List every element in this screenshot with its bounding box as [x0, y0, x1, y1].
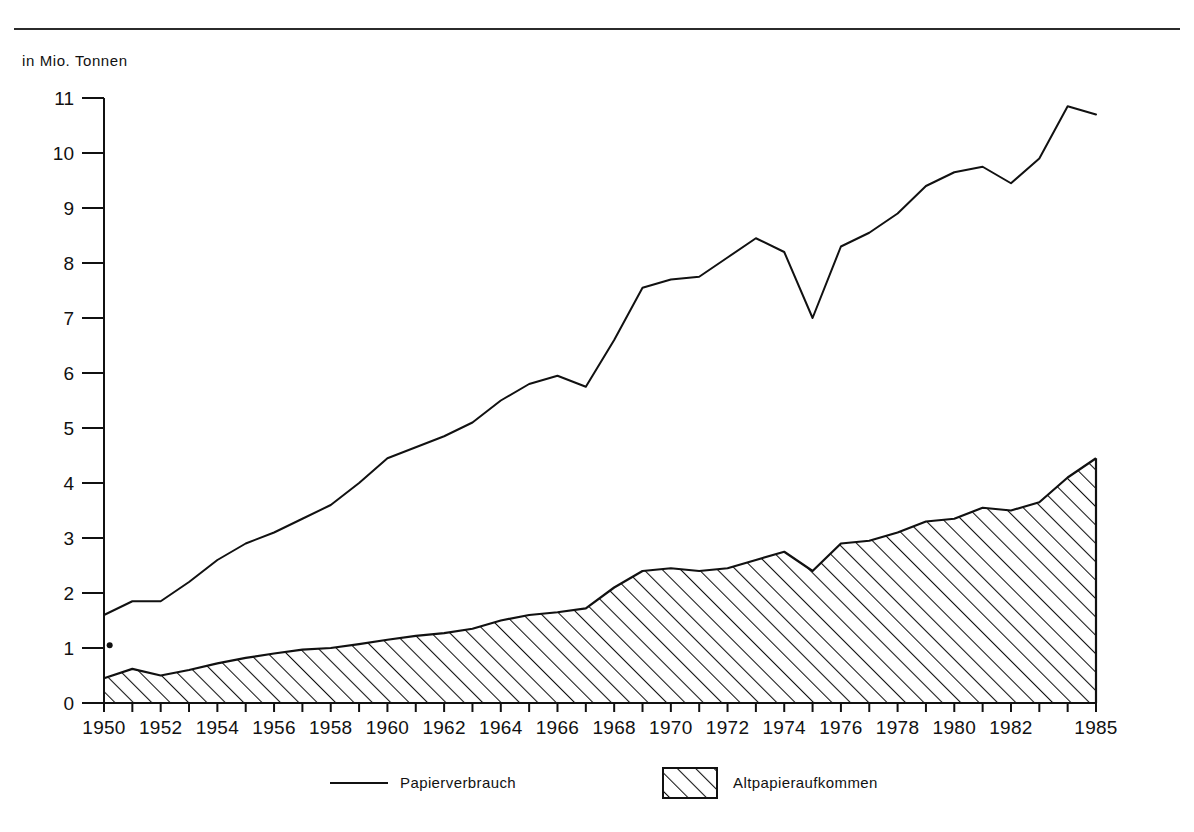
y-axis: 01234567891011	[53, 88, 104, 714]
y-axis-tick-label: 9	[63, 198, 74, 219]
y-axis-tick-label: 2	[63, 583, 74, 604]
y-axis-tick-label: 0	[63, 693, 74, 714]
y-axis-tick-label: 5	[63, 418, 74, 439]
x-axis-tick-label: 1982	[989, 717, 1032, 738]
x-axis-tick-label: 1974	[762, 717, 806, 738]
legend-hatched-swatch	[663, 768, 717, 798]
figure-root: in Mio. Tonnen 01234567891011 1950195219…	[0, 0, 1194, 832]
x-axis-tick-label: 1958	[309, 717, 352, 738]
annotation-point-mark	[107, 642, 113, 648]
x-axis-tick-label: 1952	[139, 717, 182, 738]
y-axis-tick-label: 1	[63, 638, 74, 659]
chart-legend: PapierverbrauchAltpapieraufkommen	[330, 768, 878, 798]
x-axis-tick-label: 1966	[536, 717, 579, 738]
x-axis-tick-label: 1972	[706, 717, 749, 738]
x-axis-tick-label: 1956	[252, 717, 295, 738]
x-axis-tick-label: 1978	[876, 717, 919, 738]
series-altpapieraufkommen-area	[104, 458, 1096, 703]
x-axis-tick-label: 1950	[82, 717, 125, 738]
x-axis-tick-label: 1962	[422, 717, 465, 738]
x-axis-tick-label: 1985	[1074, 717, 1117, 738]
x-axis: 1950195219541956195819601962196419661968…	[82, 703, 1118, 738]
x-axis-tick-label: 1964	[479, 717, 523, 738]
x-axis-tick-label: 1954	[196, 717, 240, 738]
x-axis-tick-label: 1980	[933, 717, 976, 738]
y-axis-tick-label: 10	[53, 143, 74, 164]
y-axis-tick-label: 7	[63, 308, 74, 329]
y-axis-tick-label: 8	[63, 253, 74, 274]
legend-label-altpapieraufkommen: Altpapieraufkommen	[733, 774, 878, 791]
x-axis-tick-label: 1968	[592, 717, 635, 738]
x-axis-tick-label: 1960	[366, 717, 409, 738]
legend-label-papierverbrauch: Papierverbrauch	[400, 774, 516, 791]
y-axis-tick-label: 6	[63, 363, 74, 384]
y-axis-tick-label: 11	[54, 88, 74, 109]
x-axis-tick-label: 1970	[649, 717, 692, 738]
chart-annotations	[107, 642, 113, 648]
x-axis-tick-label: 1976	[819, 717, 862, 738]
chart-canvas: 01234567891011 1950195219541956195819601…	[0, 0, 1194, 832]
y-axis-tick-label: 4	[63, 473, 74, 494]
area-fill-hatched	[104, 458, 1096, 703]
y-axis-tick-label: 3	[63, 528, 74, 549]
